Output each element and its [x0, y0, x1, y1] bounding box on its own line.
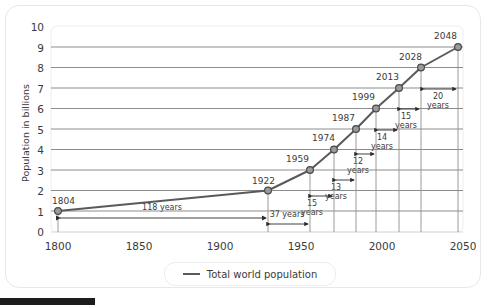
grid-lines	[51, 47, 463, 211]
chart-canvas: Population in billions 10 9 8 7 6 5 4 3 …	[0, 0, 491, 305]
legend-label: Total world population	[207, 269, 317, 280]
legend-swatch-icon	[183, 273, 200, 275]
bottom-left-bar	[0, 298, 95, 305]
chart-svg	[0, 0, 491, 305]
interval-arrows	[60, 89, 456, 224]
chart-legend: Total world population	[164, 262, 336, 286]
